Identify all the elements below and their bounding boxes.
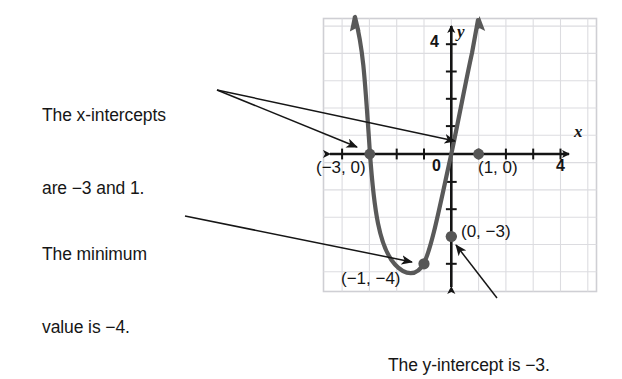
label-x-intercept-right: (1, 0) — [478, 158, 518, 178]
point-y-intercept — [446, 231, 457, 242]
callout-y-intercept-line1: The y-intercept is −3. — [388, 353, 550, 377]
label-x-intercept-left: (−3, 0) — [316, 158, 366, 178]
point-x-intercept-left — [364, 149, 375, 160]
callout-minimum: The minimum value is −4. — [42, 194, 147, 379]
callout-minimum-line2: value is −4. — [42, 315, 147, 339]
y-axis-letter: y — [457, 22, 465, 42]
label-vertex: (−1, −4) — [341, 269, 401, 289]
origin-label: 0 — [432, 157, 441, 175]
y-axis-tick-label-4: 4 — [430, 33, 439, 51]
callout-y-intercept: The y-intercept is −3. — [388, 305, 550, 379]
x-axis-tick-label-4: 4 — [556, 157, 565, 175]
callout-x-intercepts-line1: The x-intercepts — [42, 103, 166, 127]
point-vertex — [418, 258, 429, 269]
x-axis-letter: x — [574, 122, 583, 142]
callout-minimum-line1: The minimum — [42, 242, 147, 266]
label-y-intercept: (0, −3) — [461, 222, 511, 242]
